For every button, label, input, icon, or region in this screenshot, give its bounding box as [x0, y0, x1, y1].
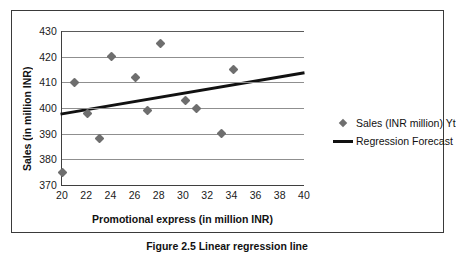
y-tick-label: 390 — [39, 128, 57, 140]
legend-label-sales: Sales (INR million) Yt — [356, 117, 456, 129]
y-tick-label: 410 — [39, 76, 57, 88]
x-tick-label: 38 — [274, 189, 286, 201]
gridline — [62, 108, 304, 109]
chart-legend: Sales (INR million) Yt Regression Foreca… — [330, 114, 456, 150]
y-axis-title: Sales (in million INR) — [20, 41, 34, 196]
y-tick-label: 400 — [39, 102, 57, 114]
gridline — [62, 31, 304, 32]
legend-label-regression: Regression Forecast — [356, 135, 453, 147]
y-tick-label: 430 — [39, 25, 57, 37]
x-tick-label: 20 — [56, 189, 68, 201]
x-axis-title: Promotional express (in million INR) — [61, 213, 304, 225]
legend-item-sales: Sales (INR million) Yt — [330, 114, 456, 132]
y-tick-label: 370 — [39, 179, 57, 191]
x-tick-label: 26 — [129, 189, 141, 201]
gridline — [62, 159, 304, 160]
legend-item-regression: Regression Forecast — [330, 132, 456, 150]
figure-caption: Figure 2.5 Linear regression line — [0, 240, 454, 252]
plot-area: 3703803904004104204302022242628303234363… — [61, 31, 304, 186]
x-tick-label: 30 — [177, 189, 189, 201]
x-tick-label: 40 — [298, 189, 310, 201]
line-icon — [330, 140, 356, 143]
x-tick-label: 32 — [201, 189, 213, 201]
x-tick-label: 24 — [104, 189, 116, 201]
x-tick-label: 28 — [153, 189, 165, 201]
gridline — [62, 82, 304, 83]
gridline — [62, 57, 304, 58]
y-tick-label: 420 — [39, 51, 57, 63]
x-tick-label: 22 — [80, 189, 92, 201]
x-tick-label: 36 — [250, 189, 262, 201]
diamond-icon — [330, 120, 356, 126]
y-tick-label: 380 — [39, 153, 57, 165]
x-tick-label: 34 — [225, 189, 237, 201]
chart-frame: Sales (in million INR) 37038039040041042… — [11, 10, 444, 233]
